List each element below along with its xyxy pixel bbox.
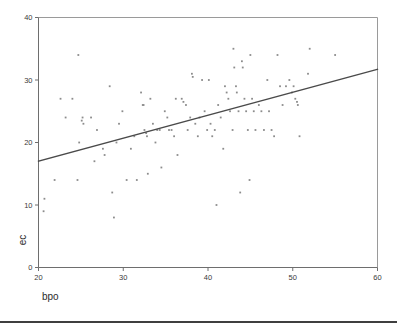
scatter-point [216, 204, 218, 206]
scatter-point [334, 54, 336, 56]
scatter-point [168, 129, 170, 131]
scatter-point [229, 110, 231, 112]
scatter-point [220, 117, 222, 119]
scatter-point [244, 98, 246, 100]
scatter-point [222, 148, 224, 150]
scatter-point [166, 117, 168, 119]
scatter-point [191, 73, 193, 75]
scatter-point [185, 104, 187, 106]
scatter-point [65, 117, 67, 119]
scatter-point [183, 101, 185, 103]
scatter-point [152, 123, 154, 125]
plot-canvas: 010203040 2030405060 ec bpo [0, 0, 397, 328]
x-tick-label: 30 [119, 273, 127, 282]
scatter-point [111, 192, 113, 194]
scatter-point [206, 129, 208, 131]
scatter-point [194, 123, 196, 125]
scatter-point [147, 173, 149, 175]
scatter-point [43, 210, 45, 212]
regression-line [39, 69, 378, 161]
x-tick-label: 20 [34, 273, 42, 282]
scatter-point [181, 98, 183, 100]
scatter-point [96, 129, 98, 131]
scatter-point [208, 79, 210, 81]
scatter-point [210, 123, 212, 125]
scatter-point [164, 110, 166, 112]
scatter-point [204, 110, 206, 112]
y-axis-ticks [35, 18, 39, 268]
scatter-point [294, 98, 296, 100]
scatter-point [72, 98, 74, 100]
scatter-point [171, 129, 173, 131]
y-tick-label: 30 [24, 76, 32, 85]
scatter-point [263, 129, 265, 131]
scatter-point [140, 92, 142, 94]
scatter-point [187, 129, 189, 131]
scatter-point [239, 192, 241, 194]
scatter-point [235, 85, 237, 87]
x-axis-ticks [39, 268, 378, 272]
scatter-point [116, 142, 118, 144]
scatter-point [233, 67, 235, 69]
scatter-point [249, 54, 251, 56]
y-axis-tick-labels: 010203040 [24, 13, 32, 272]
scatter-point [173, 135, 175, 137]
scatter-point [232, 129, 234, 131]
scatter-point [155, 142, 157, 144]
scatter-point [268, 110, 270, 112]
scatter-point [279, 85, 281, 87]
scatter-point [282, 104, 284, 106]
x-tick-label: 40 [204, 273, 212, 282]
scatter-point [238, 110, 240, 112]
scatter-point [288, 79, 290, 81]
y-axis-title: ec [17, 235, 28, 246]
plot-frame [39, 18, 378, 268]
scatter-point [44, 198, 46, 200]
y-tick-label: 20 [24, 138, 32, 147]
scatter-point [297, 104, 299, 106]
scatter-point [175, 98, 177, 100]
y-tick-label: 0 [28, 263, 32, 272]
scatter-point [307, 73, 309, 75]
scatter-point [309, 48, 311, 50]
scatter-point [226, 92, 228, 94]
scatter-point [118, 123, 120, 125]
scatter-point [109, 85, 111, 87]
scatter-point [266, 79, 268, 81]
scatter-point [54, 179, 56, 181]
scatter-point [113, 217, 115, 219]
scatter-point [102, 148, 104, 150]
scatter-point [245, 110, 247, 112]
scatter-point [126, 179, 128, 181]
scatter-point [273, 135, 275, 137]
scatter-point [227, 98, 229, 100]
scatter-point [83, 123, 85, 125]
scatter-point [247, 129, 249, 131]
x-axis-tick-labels: 2030405060 [34, 273, 381, 282]
scatter-point [241, 60, 243, 62]
scatter-point [146, 135, 148, 137]
x-tick-label: 50 [289, 273, 297, 282]
scatter-point [144, 129, 146, 131]
scatter-point [299, 135, 301, 137]
scatter-point [77, 54, 79, 56]
scatter-point [159, 129, 161, 131]
y-tick-label: 40 [24, 13, 32, 22]
scatter-point [201, 79, 203, 81]
scatter-point [82, 117, 84, 119]
scatter-point [130, 148, 132, 150]
scatter-point [122, 110, 124, 112]
bottom-divider-rule [0, 321, 397, 323]
scatter-point [60, 98, 62, 100]
scatter-point [136, 179, 138, 181]
scatter-point [258, 104, 260, 106]
x-axis-title: bpo [42, 291, 59, 302]
scatter-point [255, 129, 257, 131]
scatter-point [160, 167, 162, 169]
scatter-point [236, 92, 238, 94]
scatter-plot-figure: 010203040 2030405060 ec bpo [0, 0, 397, 328]
scatter-point [192, 76, 194, 78]
x-tick-label: 60 [373, 273, 381, 282]
scatter-point [242, 67, 244, 69]
scatter-point [214, 129, 216, 131]
